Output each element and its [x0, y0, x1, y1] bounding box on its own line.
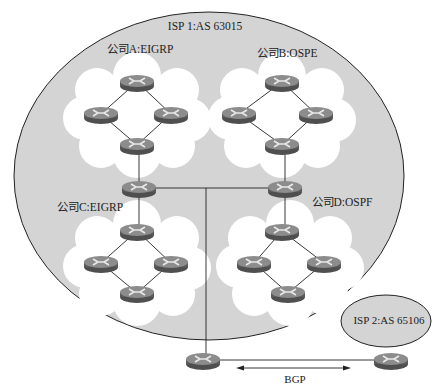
router-a-right[interactable]	[154, 107, 188, 124]
router-d-bottom[interactable]	[271, 286, 305, 303]
router-c-right[interactable]	[154, 256, 188, 273]
router-d-right[interactable]	[307, 256, 341, 273]
company-c-label: 公司C:EIGRP	[57, 201, 123, 213]
bgp-label: BGP	[284, 373, 305, 385]
bgp-arrow	[236, 366, 351, 371]
router-isp1-border[interactable]	[186, 353, 220, 370]
router-d-left[interactable]	[237, 256, 271, 273]
network-diagram: ISP 1:AS 63015 公司A:EIGRP 公司B:OSPE 公司C:EI…	[0, 0, 443, 390]
router-d-top[interactable]	[265, 224, 299, 241]
company-a-label: 公司A:EIGRP	[107, 43, 174, 55]
router-a-bottom[interactable]	[120, 138, 154, 155]
company-b-label: 公司B:OSPE	[257, 47, 318, 59]
router-a-top[interactable]	[120, 75, 154, 92]
isp1-label: ISP 1:AS 63015	[168, 20, 243, 32]
router-a-left[interactable]	[84, 107, 118, 124]
router-c-left[interactable]	[84, 256, 118, 273]
router-c-top[interactable]	[120, 224, 154, 241]
router-c-bottom[interactable]	[120, 286, 154, 303]
router-b-top[interactable]	[265, 75, 299, 92]
router-b-left[interactable]	[222, 107, 256, 124]
router-b-right[interactable]	[299, 107, 333, 124]
isp2-label: ISP 2:AS 65106	[353, 314, 425, 326]
router-hub-bd[interactable]	[268, 181, 302, 198]
router-b-bottom[interactable]	[265, 138, 299, 155]
company-d-label: 公司D:OSPF	[312, 196, 373, 208]
router-isp2-border[interactable]	[374, 353, 408, 370]
router-hub-ac[interactable]	[122, 181, 156, 198]
